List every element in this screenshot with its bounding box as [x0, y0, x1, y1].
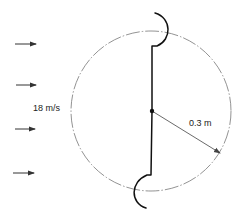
- upper-blade: [152, 13, 168, 111]
- lower-blade: [134, 111, 152, 208]
- wind-velocity-label: 18 m/s: [33, 104, 60, 113]
- rotor-axis-point: [150, 109, 154, 113]
- rotor-radius-label: 0.3 m: [189, 119, 212, 128]
